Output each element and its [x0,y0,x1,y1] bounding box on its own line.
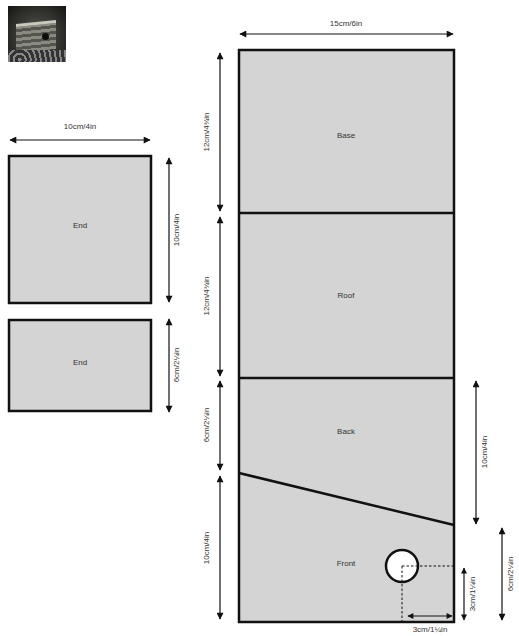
end-panel-2-height-dim: 6cm/2¼in [169,319,181,412]
back-height-dim: 6cm/2¼in [202,381,220,470]
front-right-height-dim: 6cm/2¼in [502,528,515,620]
svg-text:10cm/4in: 10cm/4in [202,532,211,564]
back-label: Back [337,427,356,436]
end-panel-1-label: End [73,221,87,230]
end-panel-1-width-dim: 10cm/4in [10,122,150,140]
back-right-height-dim: 10cm/4in [476,381,489,524]
svg-text:6cm/2¼in: 6cm/2¼in [506,557,515,592]
hole-from-bottom-dim: 3cm/1¼in [464,568,477,620]
end-panel-2-label: End [73,358,87,367]
front-height-dim: 10cm/4in [202,476,220,619]
main-panel-width-dim: 15cm/6in [240,19,453,34]
base-height-dim: 12cm/4¾in [202,53,220,211]
end-panel-2: End [9,320,151,411]
roof-height-dim: 12cm/4¾in [202,217,220,376]
svg-text:3cm/1¼in: 3cm/1¼in [468,577,477,612]
end-panel-1-height-dim: 10cm/4in [169,158,181,302]
svg-text:10cm/4in: 10cm/4in [64,122,96,131]
front-label: Front [337,559,356,568]
svg-text:6cm/2¼in: 6cm/2¼in [202,408,211,443]
svg-text:6cm/2¼in: 6cm/2¼in [172,348,181,383]
svg-text:3cm/1¼in: 3cm/1¼in [413,625,448,634]
svg-text:15cm/6in: 15cm/6in [330,19,362,28]
end-panel-1: End [9,156,151,303]
svg-text:10cm/4in: 10cm/4in [480,436,489,468]
svg-text:10cm/4in: 10cm/4in [172,214,181,246]
roof-label: Roof [338,291,356,300]
svg-text:12cm/4¾in: 12cm/4¾in [202,276,211,315]
svg-text:12cm/4¾in: 12cm/4¾in [202,112,211,151]
base-label: Base [337,131,356,140]
cutting-diagram: End 10cm/4in 10cm/4in End 6cm/2¼in Base … [0,0,519,636]
main-panel: Base Roof Back Front [239,50,454,622]
